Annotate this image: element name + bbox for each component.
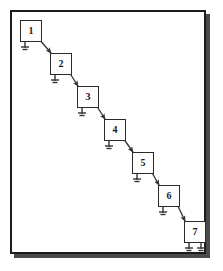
- node-label-1: 1: [29, 26, 34, 36]
- node-box-2[interactable]: 2: [50, 53, 72, 75]
- node-label-5: 5: [141, 158, 146, 168]
- node-box-4[interactable]: 4: [104, 119, 126, 141]
- node-box-6[interactable]: 6: [158, 185, 180, 207]
- node-box-1[interactable]: 1: [20, 20, 42, 42]
- node-box-7[interactable]: 7: [184, 221, 206, 243]
- node-label-7: 7: [193, 227, 198, 237]
- node-label-2: 2: [59, 59, 64, 69]
- node-label-4: 4: [113, 125, 118, 135]
- node-label-6: 6: [167, 191, 172, 201]
- node-box-3[interactable]: 3: [77, 86, 99, 108]
- node-label-3: 3: [86, 92, 91, 102]
- figure-root: 1 2 3 4 5 6 7: [0, 0, 223, 271]
- node-box-5[interactable]: 5: [132, 152, 154, 174]
